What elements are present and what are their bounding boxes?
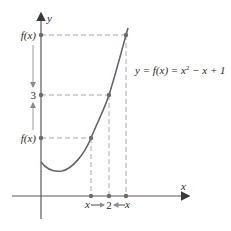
point-y-3 bbox=[39, 93, 43, 97]
equation-label: y = f(x) = x2 − x + 1 bbox=[134, 64, 226, 77]
point-curve-mid bbox=[107, 93, 111, 97]
point-x-2 bbox=[107, 194, 111, 198]
point-curve-top bbox=[124, 33, 128, 37]
points bbox=[39, 33, 128, 198]
x-axis-label: x bbox=[180, 180, 186, 192]
dashed-guides bbox=[41, 35, 126, 196]
point-y-bottom bbox=[39, 136, 43, 140]
label-2: 2 bbox=[106, 199, 112, 211]
equation-main: y = f(x) = x bbox=[134, 64, 186, 77]
y-axis-label: y bbox=[46, 12, 52, 24]
label-x-left: x bbox=[84, 198, 90, 210]
point-curve-bottom bbox=[89, 136, 93, 140]
label-x-right: x bbox=[124, 198, 130, 210]
equation-tail: − x + 1 bbox=[189, 64, 225, 76]
limit-diagram: y x f(x) 3 f(x) x 2 x y = f(x) = x2 − x … bbox=[0, 0, 231, 231]
label-fx-bottom: f(x) bbox=[21, 132, 37, 145]
point-y-top bbox=[39, 33, 43, 37]
label-fx-top: f(x) bbox=[21, 29, 37, 42]
label-3: 3 bbox=[31, 89, 37, 101]
parabola-curve bbox=[41, 28, 128, 171]
